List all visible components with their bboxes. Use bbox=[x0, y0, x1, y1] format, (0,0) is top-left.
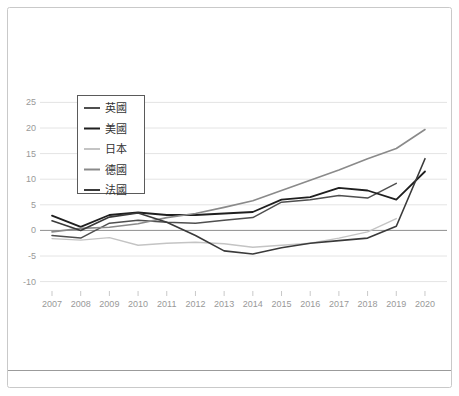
y-tick-label: 20 bbox=[26, 123, 36, 133]
y-tick-label: 10 bbox=[26, 174, 36, 184]
x-tick-label: 2011 bbox=[157, 299, 176, 309]
x-tick-label: 2007 bbox=[42, 299, 62, 309]
y-tick-label: -10 bbox=[23, 277, 36, 287]
legend-label: 法國 bbox=[105, 183, 127, 196]
chart-panel: 2520151050-5-10 200720082009201020112012… bbox=[0, 0, 459, 396]
x-tick-label: 2009 bbox=[99, 299, 119, 309]
x-tick-label: 2008 bbox=[71, 299, 91, 309]
legend-label: 英國 bbox=[105, 101, 127, 114]
x-tick-label: 2015 bbox=[272, 299, 292, 309]
panel-frame bbox=[8, 8, 452, 388]
panel-border bbox=[8, 8, 452, 388]
x-tick-label: 2013 bbox=[214, 299, 234, 309]
y-tick-label: -5 bbox=[28, 251, 36, 261]
line-chart: 2520151050-5-10 200720082009201020112012… bbox=[0, 0, 459, 396]
x-tick-label: 2017 bbox=[329, 299, 349, 309]
x-tick-label: 2018 bbox=[358, 299, 378, 309]
x-tick-label: 2010 bbox=[128, 299, 148, 309]
y-tick-label: 15 bbox=[26, 149, 36, 159]
y-tick-label: 25 bbox=[26, 97, 36, 107]
y-tick-label: 0 bbox=[31, 225, 36, 235]
legend-label: 德國 bbox=[105, 163, 127, 176]
legend: 英國美國日本德國法國 bbox=[78, 96, 145, 197]
x-tick-label: 2019 bbox=[386, 299, 406, 309]
x-tick-label: 2014 bbox=[243, 299, 263, 309]
x-tick-label: 2012 bbox=[185, 299, 205, 309]
legend-label: 日本 bbox=[105, 142, 127, 155]
y-tick-label: 5 bbox=[31, 200, 36, 210]
x-tick-label: 2016 bbox=[300, 299, 320, 309]
legend-label: 美國 bbox=[105, 123, 127, 135]
x-tick-label: 2020 bbox=[415, 299, 435, 309]
